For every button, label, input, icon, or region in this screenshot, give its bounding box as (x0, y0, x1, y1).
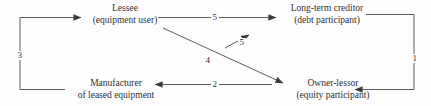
node-manufacturer-line1: Manufacturer (61, 78, 171, 90)
edge-label-5-diagonal: 5 (238, 38, 246, 47)
node-manufacturer-line2: of leased equipment (61, 90, 171, 102)
node-manufacturer: Manufacturer of leased equipment (61, 78, 171, 101)
edge-label-5-top: 5 (211, 13, 219, 22)
flow-diagram: Lessee (equipment user) Long-term credit… (0, 0, 431, 106)
node-lessee: Lessee (equipment user) (79, 3, 171, 26)
edge-label-4: 4 (204, 56, 212, 65)
node-long-term-creditor: Long-term creditor (debt participant) (272, 3, 382, 26)
node-owner-lessor: Owner-lessor (equity participant) (278, 78, 388, 101)
node-creditor-line1: Long-term creditor (272, 3, 382, 15)
node-lessee-line1: Lessee (79, 3, 171, 15)
node-creditor-line2: (debt participant) (272, 15, 382, 27)
edge-label-2: 2 (211, 80, 219, 89)
node-lessor-line2: (equity participant) (278, 90, 388, 102)
edge-label-3: 3 (16, 51, 24, 60)
node-lessee-line2: (equipment user) (79, 15, 171, 27)
edge-4-lessee-to-lessor (163, 28, 283, 83)
node-lessor-line1: Owner-lessor (278, 78, 388, 90)
edge-label-1: 1 (411, 54, 419, 63)
